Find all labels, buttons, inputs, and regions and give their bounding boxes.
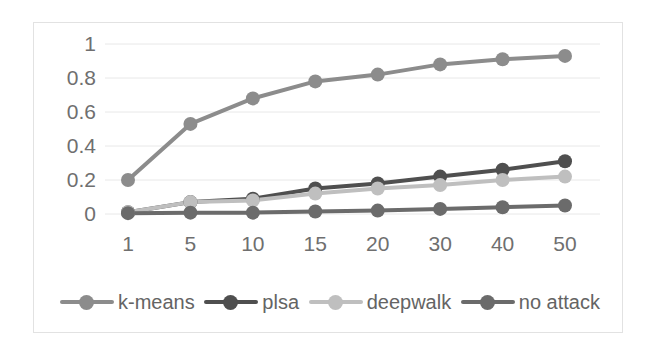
legend-marker-icon [204, 293, 258, 311]
y-tick-label-0: 1 [36, 33, 96, 54]
legend-dot-icon [223, 295, 238, 310]
y-tick-label-4: 0.2 [36, 169, 96, 190]
x-tick-label-1: 5 [166, 233, 214, 254]
x-tick-label-4: 20 [354, 233, 402, 254]
data-point-k-means-30 [433, 57, 447, 71]
legend-label: k-means [118, 292, 195, 312]
legend-marker-icon [309, 293, 363, 311]
data-point-k-means-40 [496, 52, 510, 66]
y-tick-label-5: 0 [36, 203, 96, 224]
legend-label: no attack [519, 292, 600, 312]
legend-item-no-attack[interactable]: no attack [461, 292, 600, 312]
y-tick-label-1: 0.8 [36, 67, 96, 88]
x-tick-label-2: 10 [229, 233, 277, 254]
y-tick-label-3: 0.4 [36, 135, 96, 156]
x-tick-label-0: 1 [104, 233, 152, 254]
series-lines [128, 56, 565, 213]
data-point-deepwalk-20 [371, 182, 385, 196]
data-point-k-means-5 [183, 117, 197, 131]
data-point-no-attack-10 [246, 206, 260, 220]
gridlines [105, 44, 600, 214]
data-point-no-attack-20 [371, 204, 385, 218]
legend-item-deepwalk[interactable]: deepwalk [309, 292, 452, 312]
series-markers [121, 49, 572, 220]
legend-item-k-means[interactable]: k-means [60, 292, 195, 312]
chart-legend: k-meansplsadeepwalkno attack [60, 285, 600, 319]
legend-marker-icon [60, 293, 114, 311]
legend-dot-icon [328, 295, 343, 310]
data-point-plsa-50 [558, 154, 572, 168]
legend-label: plsa [262, 292, 299, 312]
data-point-k-means-1 [121, 173, 135, 187]
data-point-deepwalk-30 [433, 178, 447, 192]
legend-label: deepwalk [367, 292, 452, 312]
data-point-no-attack-15 [308, 204, 322, 218]
legend-dot-icon [79, 295, 94, 310]
data-point-deepwalk-15 [308, 187, 322, 201]
data-point-deepwalk-50 [558, 170, 572, 184]
legend-item-plsa[interactable]: plsa [204, 292, 299, 312]
x-tick-label-6: 40 [479, 233, 527, 254]
data-point-no-attack-1 [121, 206, 135, 220]
data-point-no-attack-5 [183, 206, 197, 220]
data-point-no-attack-50 [558, 199, 572, 213]
x-tick-label-5: 30 [416, 233, 464, 254]
x-tick-label-3: 15 [291, 233, 339, 254]
y-tick-label-2: 0.6 [36, 101, 96, 122]
data-point-k-means-15 [308, 74, 322, 88]
data-point-deepwalk-40 [496, 173, 510, 187]
data-point-k-means-50 [558, 49, 572, 63]
data-point-k-means-10 [246, 91, 260, 105]
legend-marker-icon [461, 293, 515, 311]
data-point-k-means-20 [371, 68, 385, 82]
data-point-deepwalk-10 [246, 193, 260, 207]
data-point-no-attack-40 [496, 200, 510, 214]
x-tick-label-7: 50 [541, 233, 589, 254]
data-point-no-attack-30 [433, 202, 447, 216]
legend-dot-icon [480, 295, 495, 310]
